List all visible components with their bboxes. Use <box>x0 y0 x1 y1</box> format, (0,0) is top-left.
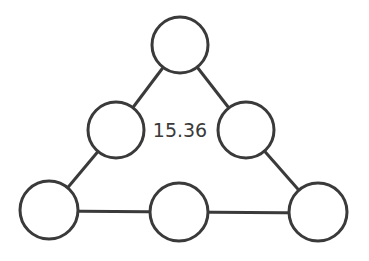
node-bottom-right <box>289 183 347 241</box>
node-bottom-left <box>20 181 78 239</box>
node-mid-left <box>88 102 144 158</box>
triangle-node-diagram: 15.36 <box>0 0 369 261</box>
node-mid-right <box>218 102 274 158</box>
center-value-label: 15.36 <box>153 119 207 141</box>
node-bottom-middle <box>150 183 208 241</box>
node-top <box>152 17 208 73</box>
